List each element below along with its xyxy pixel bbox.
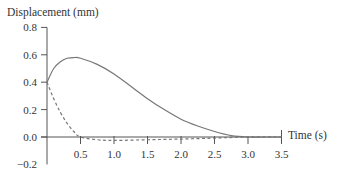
x-tick-label: 3.5: [275, 148, 289, 160]
x-axis-label: Time (s): [288, 129, 327, 142]
x-tick-label: 2.0: [174, 148, 188, 160]
x-tick-label: 0.5: [74, 148, 88, 160]
x-tick-label: 2.5: [208, 148, 222, 160]
axes: [41, 27, 282, 164]
y-tick-label: 0.6: [23, 49, 37, 61]
y-tick-label: −0.2: [17, 158, 37, 170]
x-tick-label: 1.5: [141, 148, 155, 160]
x-tick-label: 3.0: [241, 148, 255, 160]
y-tick-label: 0.8: [23, 21, 37, 33]
y-tick-label: 0.2: [23, 104, 37, 116]
dashed-series-line: [47, 82, 282, 140]
displacement-chart: Displacement (mm) 0.80.60.40.20.0−0.20.5…: [0, 0, 339, 177]
tick-labels: 0.80.60.40.20.0−0.20.51.01.52.02.53.03.5: [17, 21, 289, 170]
solid-series-line: [47, 57, 282, 137]
y-axis-label: Displacement (mm): [7, 6, 99, 19]
x-tick-label: 1.0: [107, 148, 121, 160]
y-tick-label: 0.0: [23, 131, 37, 143]
y-tick-label: 0.4: [23, 76, 37, 88]
series-group: [47, 57, 282, 140]
